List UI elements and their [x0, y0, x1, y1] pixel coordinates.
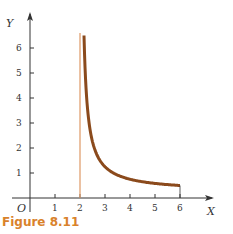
x-tick-label: 2 — [77, 203, 83, 213]
origin-label: O — [17, 202, 26, 215]
x-tick-label: 6 — [177, 203, 183, 213]
y-tick-label: 2 — [16, 143, 22, 153]
chart: YXO123456123456 — [0, 0, 233, 234]
x-tick-label: 4 — [127, 203, 133, 213]
x-tick-label: 1 — [52, 203, 58, 213]
x-tick-label: 3 — [102, 203, 108, 213]
y-tick-label: 1 — [16, 168, 22, 178]
figure-caption: Figure 8.11 — [2, 215, 79, 229]
y-tick-label: 4 — [16, 93, 22, 103]
curve-series — [84, 36, 180, 186]
y-axis-label: Y — [6, 17, 15, 30]
x-tick-label: 5 — [152, 203, 158, 213]
x-axis-label: X — [206, 205, 216, 218]
y-tick-label: 6 — [16, 43, 22, 53]
y-tick-label: 5 — [16, 68, 22, 78]
y-tick-label: 3 — [16, 118, 22, 128]
